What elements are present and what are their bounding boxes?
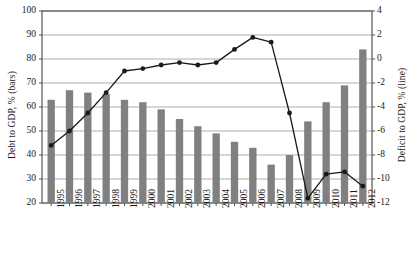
x-axis-tick-label: 2005 <box>239 189 249 208</box>
x-axis-tick-label: 1998 <box>111 189 121 208</box>
left-axis-tick-label: 90 <box>14 29 36 39</box>
line-marker <box>250 35 255 40</box>
left-axis-tick-label: 80 <box>14 53 36 63</box>
line-marker <box>195 63 200 68</box>
line-marker <box>159 63 164 68</box>
line-marker <box>122 69 127 74</box>
right-axis-tick-label: -6 <box>377 125 401 135</box>
line-marker <box>342 169 347 174</box>
bar <box>158 109 165 203</box>
line-marker <box>85 111 90 116</box>
x-axis-tick-label: 1995 <box>56 189 66 208</box>
bar <box>213 133 220 203</box>
deficit-line <box>51 37 363 198</box>
right-axis-tick-label: -10 <box>377 173 401 183</box>
x-axis-tick-label: 2009 <box>312 189 322 208</box>
bar <box>304 121 311 203</box>
line-marker <box>67 129 72 134</box>
x-axis-tick-label: 1999 <box>129 189 139 208</box>
bar <box>231 142 238 203</box>
bar <box>249 148 256 203</box>
x-axis-tick-label: 2008 <box>294 189 304 208</box>
bar <box>359 49 366 203</box>
bar <box>176 119 183 203</box>
x-axis-tick-label: 2004 <box>221 189 231 208</box>
left-axis-tick-label: 20 <box>14 197 36 207</box>
x-axis-tick-label: 2012 <box>367 189 377 208</box>
left-axis-tick-label: 50 <box>14 125 36 135</box>
line-marker <box>140 66 145 71</box>
x-axis-tick-label: 1997 <box>92 189 102 208</box>
x-axis-tick-label: 2007 <box>276 189 286 208</box>
right-axis-tick-label: 2 <box>377 29 401 39</box>
x-axis-tick-label: 1996 <box>74 189 84 208</box>
bar <box>341 85 348 203</box>
x-axis-tick-label: 2010 <box>331 189 341 208</box>
right-axis-tick-label: -2 <box>377 77 401 87</box>
right-axis-tick-label: 0 <box>377 53 401 63</box>
x-axis-tick-label: 2006 <box>257 189 267 208</box>
x-axis-tick-label: 2000 <box>147 189 157 208</box>
line-marker <box>214 60 219 65</box>
bar <box>323 102 330 203</box>
x-axis-tick-label: 2002 <box>184 189 194 208</box>
right-axis-tick-label: -4 <box>377 101 401 111</box>
chart-container: Debt to GDP, % (bars) Deficit to GDP, % … <box>0 0 414 273</box>
plot-area <box>0 0 414 273</box>
left-axis-tick-label: 100 <box>14 5 36 15</box>
bar <box>139 102 146 203</box>
line-marker <box>360 184 365 189</box>
line-marker <box>324 172 329 177</box>
bar <box>84 93 91 203</box>
line-marker <box>305 196 310 201</box>
bar <box>66 90 73 203</box>
bar <box>268 165 275 203</box>
left-axis-tick-label: 40 <box>14 149 36 159</box>
line-marker <box>49 143 54 148</box>
bar <box>121 100 128 203</box>
left-axis-tick-label: 70 <box>14 77 36 87</box>
x-axis-tick-label: 2003 <box>202 189 212 208</box>
right-axis-tick-label: -8 <box>377 149 401 159</box>
bar <box>194 126 201 203</box>
line-marker <box>287 111 292 116</box>
left-axis-tick-label: 30 <box>14 173 36 183</box>
x-axis-tick-label: 2011 <box>349 189 359 208</box>
bar <box>286 155 293 203</box>
bar <box>48 100 55 203</box>
line-marker <box>104 90 109 95</box>
x-axis-tick-label: 2001 <box>166 189 176 208</box>
line-marker <box>177 60 182 65</box>
line-marker <box>269 40 274 45</box>
right-axis-tick-label: 4 <box>377 5 401 15</box>
bar <box>103 94 110 203</box>
line-marker <box>232 47 237 52</box>
right-axis-tick-label: -12 <box>377 197 401 207</box>
left-axis-tick-label: 60 <box>14 101 36 111</box>
